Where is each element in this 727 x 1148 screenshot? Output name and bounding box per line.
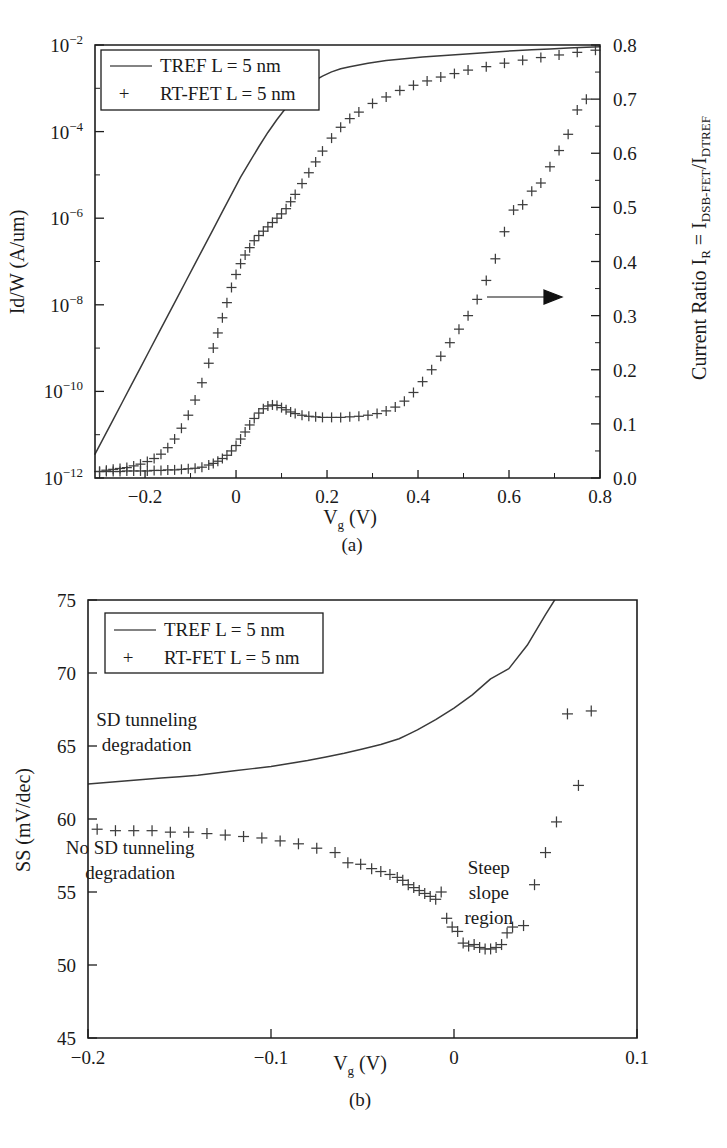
xlabel-unit: (V)	[354, 1052, 387, 1075]
xlabel-v: V	[333, 1052, 348, 1074]
panel-b-svg: −0.2−0.100.1 45505560657075 SD tunneling…	[0, 560, 727, 1148]
panel-b-xtick-label: −0.1	[254, 1047, 288, 1068]
panel-a-ytick-right-label: 0.0	[613, 468, 637, 489]
panel-a-ytick-right-label: 0.7	[613, 89, 637, 110]
panel-b-xlabel: Vg (V)	[333, 1052, 387, 1078]
legend-marker-swatch: +	[123, 647, 134, 668]
panel-b-ylabel: SS (mV/dec)	[12, 768, 35, 872]
panel-a-ytick-left-label: 10−8	[50, 292, 83, 316]
panel-a-ytick-left-label: 10−2	[50, 32, 83, 56]
panel-a-ylabel-left: Id/W (A/um)	[6, 210, 29, 315]
panel-a-ylabel-right: Current Ratio IR = IDSB-FET/IDTREF	[688, 116, 713, 380]
panel-b-ytick-label: 75	[57, 590, 76, 611]
right-axis-arrow-icon	[487, 290, 562, 304]
panel-a-ytick-left-label: 10−12	[44, 465, 83, 489]
panel-a-transfer-characteristics: −0.200.20.40.60.8 10−210−410−610−810−101…	[0, 0, 727, 560]
xlabel-unit: (V)	[344, 506, 377, 529]
ylabel-right-slash: /I	[688, 157, 710, 169]
panel-a-ytick-right-label: 0.8	[613, 35, 637, 56]
panel-a-ytick-right-label: 0.1	[613, 414, 637, 435]
panel-b-ytick-label: 65	[57, 736, 76, 757]
panel-b-annotation: No SD tunnelingdegradation	[66, 837, 195, 883]
panel-a-series-current-ratio-markers	[95, 94, 592, 476]
panel-a-ytick-right-label: 0.2	[613, 360, 637, 381]
panel-b-label: (b)	[349, 1089, 371, 1111]
panel-a-ytick-left-label: 10−10	[44, 378, 83, 402]
panel-b-xtick-label: 0.1	[625, 1047, 649, 1068]
panel-a-ytick-right-label: 0.5	[613, 197, 637, 218]
panel-b-ytick-label: 50	[57, 955, 76, 976]
xlabel-v: V	[323, 506, 338, 528]
panel-a-ytick-left-label: 10−6	[50, 205, 83, 229]
panel-b-subthreshold-swing: −0.2−0.100.1 45505560657075 SD tunneling…	[0, 560, 727, 1148]
panel-b-xtick-label: −0.2	[71, 1047, 105, 1068]
svg-text:Current Ratio IR = IDSB-FET/ID: Current Ratio IR = IDSB-FET/IDTREF	[688, 116, 713, 380]
panel-b-ytick-label: 60	[57, 809, 76, 830]
ylabel-right-sub-dtref: DTREF	[698, 116, 713, 157]
panel-b-ytick-label: 70	[57, 663, 76, 684]
ylabel-right-sub-dsb: DSB-FET	[698, 169, 713, 222]
panel-b-annotation: Steepsloperegion	[464, 857, 513, 928]
panel-b-ytick-label: 45	[57, 1028, 76, 1049]
panel-a-ytick-left-label: 10−4	[50, 119, 83, 143]
figure-page: −0.200.20.40.60.8 10−210−410−610−810−101…	[0, 0, 727, 1148]
panel-a-xtick-label: 0.2	[315, 486, 339, 507]
panel-b-legend: TREF L = 5 nm + RT-FET L = 5 nm	[105, 613, 323, 673]
legend-marker-swatch: +	[119, 83, 130, 104]
panel-a-ytick-right-label: 0.3	[613, 306, 637, 327]
panel-a-xtick-label: −0.2	[128, 486, 162, 507]
legend-marker-label: RT-FET L = 5 nm	[160, 83, 296, 104]
panel-a-svg: −0.200.20.40.60.8 10−210−410−610−810−101…	[0, 0, 727, 560]
panel-b-xtick-label: 0	[449, 1047, 459, 1068]
ylabel-right-mid: = I	[688, 222, 710, 250]
legend-line-label: TREF L = 5 nm	[164, 619, 285, 640]
panel-a-legend: TREF L = 5 nm + RT-FET L = 5 nm	[101, 50, 319, 110]
panel-a-ytick-right-label: 0.4	[613, 252, 637, 273]
panel-a-xtick-label: 0.8	[588, 486, 612, 507]
panel-b-ytick-label: 55	[57, 882, 76, 903]
panel-a-xlabel: Vg (V)	[323, 506, 377, 532]
legend-line-label: TREF L = 5 nm	[160, 55, 281, 76]
legend-marker-label: RT-FET L = 5 nm	[164, 647, 300, 668]
panel-b-annotation: SD tunnelingdegradation	[96, 709, 197, 755]
ylabel-right-sub-r: R	[698, 250, 713, 259]
panel-a-xtick-label: 0.4	[406, 486, 430, 507]
ylabel-right-prefix: Current Ratio I	[688, 259, 710, 380]
panel-a-ytick-right-label: 0.6	[613, 143, 637, 164]
panel-a-xtick-label: 0.6	[497, 486, 521, 507]
panel-a-xtick-label: 0	[231, 486, 241, 507]
panel-a-label: (a)	[341, 534, 362, 556]
